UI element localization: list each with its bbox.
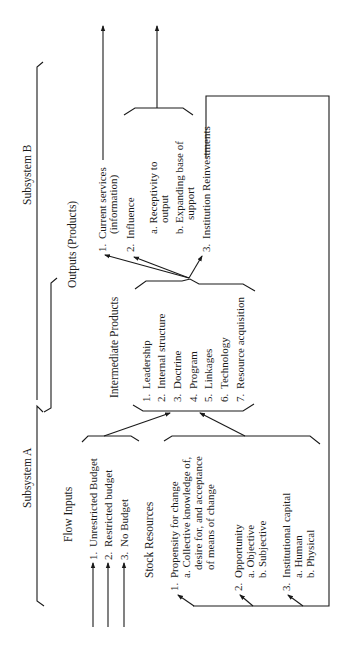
subsystem-a-bracket [37, 406, 44, 606]
intermediate-3-num: 3. [171, 394, 183, 403]
arrow-to-output-3 [189, 256, 202, 278]
intermediate-1-num: 1. [140, 394, 152, 403]
stock-2-line1: Opportunity [232, 524, 244, 578]
intermediate-5-label: Linkages [202, 349, 214, 389]
intermediate-4-label: Program [187, 351, 199, 389]
stock-3-arrow [288, 595, 303, 606]
intermediate-4-num: 4. [187, 394, 199, 403]
stock-resources-title: Stock Resources [143, 501, 155, 578]
intermediate-title: Intermediate Products [108, 296, 120, 398]
stock-3-line2: a. Human [292, 535, 304, 578]
intermediate-5-num: 5. [202, 394, 214, 403]
stock-2-line3: b. Subjective [256, 520, 268, 578]
stock-1-line1: Propensity for change [168, 481, 180, 578]
stock-1-line3: desire for, and acceptance [192, 456, 204, 570]
intermediate-7-label: Resource acquisition [234, 297, 246, 389]
stock-1-arrow [178, 595, 194, 606]
stock-2-num: 2. [232, 583, 244, 592]
stock-3-line1: Institutional capital [280, 493, 292, 578]
flow-input-3-num: 3. [118, 552, 130, 561]
flow-to-intermediate-arrow [104, 413, 170, 436]
stock-1-num: 1. [168, 583, 180, 592]
outputs-title: Outputs (Products) [66, 201, 79, 288]
flow-input-1-label: Unrestricted Budget [87, 458, 99, 547]
subsystem-b-bracket [37, 62, 43, 400]
intermediate-bottom-bracket [133, 404, 254, 411]
stock-3-num: 3. [280, 583, 292, 592]
influence-bracket [124, 108, 193, 115]
output-2-num: 2. [124, 244, 136, 253]
flow-input-3-label: No Budget [118, 499, 130, 547]
flow-input-2-label: Restricted budget [102, 470, 114, 547]
intermediate-list: 1. Leadership 2. Internal structure 3. D… [140, 297, 246, 402]
output-1-line2: (information) [107, 174, 120, 234]
intermediate-top-bracket [135, 279, 255, 291]
intermediate-2-num: 2. [155, 394, 167, 403]
stock-2-line2: a. Objective [244, 525, 256, 578]
flow-input-2-num: 2. [102, 552, 114, 561]
stock-resources-list: 1. Propensity for change a. Collective k… [168, 456, 316, 591]
flow-input-1-num: 1. [87, 552, 99, 561]
stock-1-line2: a. Collective knowledge of, [180, 456, 192, 578]
intermediate-2-label: Internal structure [155, 313, 167, 389]
stock-resources-bracket [164, 436, 320, 444]
stock-3-line3: b. Physical [304, 530, 316, 578]
arrow-to-output-2 [134, 257, 189, 278]
stock-to-intermediate-arrow [200, 413, 245, 436]
output-3-num: 3. [200, 244, 212, 253]
output-1-num: 1. [96, 244, 108, 253]
subsystem-a-label: Subsystem A [21, 447, 34, 508]
subsystem-b-label: Subsystem B [21, 144, 34, 205]
systems-diagram: Subsystem B Subsystem A Outputs (Product… [0, 0, 341, 652]
output-2b-line2: support [184, 187, 196, 220]
flow-inputs-title: Flow Inputs [62, 486, 75, 542]
intermediate-7-num: 7. [234, 394, 246, 403]
stock-1-line4: of means of change [204, 484, 216, 570]
intermediate-3-label: Doctrine [171, 350, 183, 389]
outputs-list: 1. Current services (information) 2. Inf… [96, 126, 212, 252]
arrow-to-output-1 [105, 255, 189, 278]
flow-inputs-bracket [82, 436, 139, 442]
stock-2-arrow [240, 595, 253, 606]
output-2a-line2: output [158, 195, 170, 223]
intermediate-6-num: 6. [218, 394, 230, 403]
intermediate-1-label: Leadership [140, 340, 152, 389]
intermediate-6-label: Technology [218, 337, 230, 389]
flow-inputs-list: 1. Unrestricted Budget 2. Restricted bud… [87, 458, 130, 560]
intermediate-outer-bracket [44, 278, 57, 412]
output-2-label: Influence [124, 197, 136, 239]
